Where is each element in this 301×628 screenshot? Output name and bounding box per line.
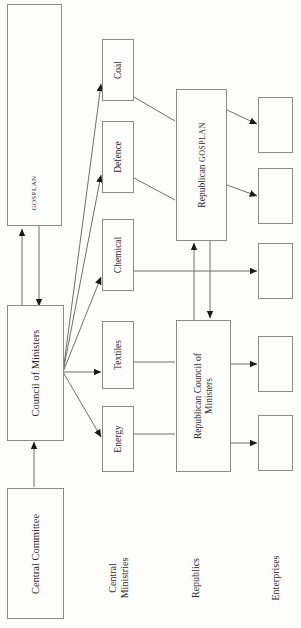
diagram-canvas: GOSPLAN Council of Ministers Central Com… (0, 0, 301, 628)
enterprise-box-1[interactable] (258, 97, 293, 153)
ministry-label-chemical: Chemical (113, 237, 124, 273)
gosplan-word: GOSPLAN (197, 122, 206, 162)
node-gosplan-label: GOSPLAN (31, 175, 39, 210)
edge-council-to-defence (63, 175, 101, 372)
ministry-box-coal[interactable]: Coal (102, 39, 134, 101)
ministry-box-energy[interactable]: Energy (102, 406, 134, 472)
republican-council-line2: Ministers (204, 378, 214, 414)
node-republican-council-label: Republican Council of Ministers (193, 353, 214, 439)
column-caption-republics: Republics (190, 558, 202, 598)
node-republican-gosplan[interactable]: Republican GOSPLAN (176, 89, 227, 241)
caption-central-ministries-line2: Ministries (118, 558, 129, 599)
edge-repgosplan-to-enterprise-2 (227, 185, 257, 196)
ministry-box-chemical[interactable]: Chemical (102, 219, 134, 291)
edge-council-to-coal (63, 84, 101, 372)
column-caption-enterprises: Enterprises (270, 556, 282, 601)
column-caption-central-ministries: Central Ministries (107, 558, 130, 599)
node-central-committee[interactable]: Central Committee (7, 488, 64, 619)
node-council-of-ministers-label: Council of Ministers (30, 330, 42, 417)
edge-coal-to-repgosplan (134, 97, 175, 121)
edge-repgosplan-to-enterprise-1 (227, 110, 257, 124)
republican-council-line1: Republican Council of (193, 353, 203, 439)
ministry-label-defence: Defence (113, 141, 124, 173)
republican-word: Republican (196, 164, 206, 207)
node-republican-council-of-ministers[interactable]: Republican Council of Ministers (176, 320, 231, 472)
ministry-box-defence[interactable]: Defence (102, 121, 134, 193)
edge-council-to-energy (63, 372, 101, 437)
ministry-label-energy: Energy (113, 425, 124, 452)
ministry-label-coal: Coal (113, 61, 124, 79)
edge-defence-to-repgosplan (134, 178, 175, 200)
caption-central-ministries-line1: Central (107, 563, 118, 592)
node-gosplan[interactable]: GOSPLAN (7, 4, 62, 226)
node-central-committee-label: Central Committee (30, 513, 42, 593)
enterprise-box-2[interactable] (258, 168, 293, 224)
enterprise-box-5[interactable] (258, 415, 293, 471)
node-council-of-ministers[interactable]: Council of Ministers (7, 305, 64, 441)
ministry-box-textiles[interactable]: Textiles (102, 321, 134, 389)
edge-council-to-chemical (63, 277, 101, 372)
enterprise-box-4[interactable] (258, 336, 293, 392)
enterprise-box-3[interactable] (258, 243, 293, 299)
node-republican-gosplan-label: Republican GOSPLAN (196, 122, 207, 207)
ministry-label-textiles: Textiles (113, 340, 124, 370)
caption-republics-line1: Republics (190, 558, 201, 598)
caption-enterprises-line1: Enterprises (270, 556, 281, 601)
